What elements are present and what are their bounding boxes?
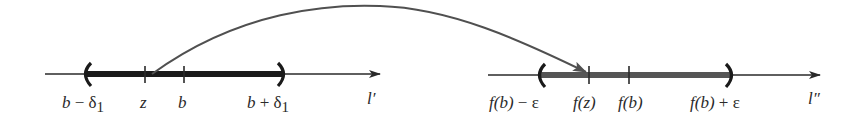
label-subscript: 1 — [97, 99, 105, 115]
label-l-prime: l′ — [367, 90, 375, 107]
label-fz: f(z) — [573, 94, 596, 111]
label-part: b — [247, 93, 256, 112]
label-b-minus-delta: b − δ1 — [62, 94, 104, 111]
domain-number-line — [45, 63, 380, 86]
label-part: δ — [274, 93, 282, 112]
continuity-diagram: b − δ1 z b b + δ1 l′ f(b) − ε f(z) f(b) … — [0, 0, 844, 126]
label-part: (b) — [623, 93, 643, 112]
label-part: (b) — [494, 93, 514, 112]
label-subscript: 1 — [282, 99, 290, 115]
label-fb: f(b) — [618, 94, 643, 111]
label-fb-plus-epsilon: f(b) + ε — [690, 94, 740, 111]
mapping-arc-arrow-icon — [152, 6, 586, 74]
label-b-plus-delta: b + δ1 — [247, 94, 289, 111]
label-part: + — [256, 93, 274, 112]
label-fb-minus-epsilon: f(b) − ε — [489, 94, 539, 111]
label-z: z — [140, 94, 147, 111]
label-part: − — [71, 93, 89, 112]
label-part: − ε — [514, 93, 539, 112]
label-part: b — [62, 93, 71, 112]
range-number-line — [488, 64, 820, 87]
label-l-double-prime: l″ — [808, 90, 820, 107]
label-b: b — [178, 94, 187, 111]
label-part: (z) — [578, 93, 596, 112]
label-part: (b) — [695, 93, 715, 112]
label-part: δ — [89, 93, 97, 112]
label-part: + ε — [715, 93, 740, 112]
